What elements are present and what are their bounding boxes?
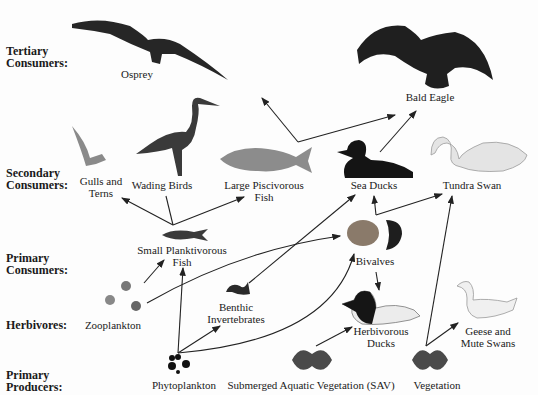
arrow-fish-to-osprey bbox=[262, 98, 298, 142]
label-large-piscivorous-fish: Large PiscivorousFish bbox=[224, 180, 304, 203]
arrow-vegetation-to-geese bbox=[426, 323, 458, 346]
label-vegetation: Vegetation bbox=[413, 380, 460, 392]
arrow-smallfish-to-wading bbox=[166, 196, 173, 225]
label-text: Terns bbox=[89, 187, 113, 199]
label-text: Vegetation bbox=[413, 379, 460, 391]
label-text: Mute Swans bbox=[461, 337, 516, 349]
label-text: Ducks bbox=[367, 337, 395, 349]
label-text: Fish bbox=[255, 191, 274, 203]
label-text: Large Piscivorous bbox=[224, 179, 304, 191]
arrow-fish-to-bald-eagle bbox=[298, 115, 395, 142]
label-tundra-swan: Tundra Swan bbox=[443, 180, 502, 192]
label-text: Zooplankton bbox=[85, 319, 141, 331]
label-bivalves: Bivalves bbox=[356, 256, 395, 268]
label-text: Gulls and bbox=[80, 175, 122, 187]
arrow-bivalves-to-herbducks bbox=[376, 272, 379, 290]
label-text: Small Planktivorous bbox=[137, 244, 227, 256]
label-osprey: Osprey bbox=[121, 69, 153, 81]
label-herbivorous-ducks: HerbivorousDucks bbox=[354, 326, 409, 349]
label-sea-ducks: Sea Ducks bbox=[351, 180, 398, 192]
label-text: Bald Eagle bbox=[406, 91, 455, 103]
arrow-bivalves-to-tundra-swan bbox=[376, 194, 442, 215]
label-phytoplankton: Phytoplankton bbox=[152, 380, 216, 392]
label-small-planktivorous-fish: Small PlanktivorousFish bbox=[137, 245, 227, 268]
label-text: Osprey bbox=[121, 68, 153, 80]
label-text: Bivalves bbox=[356, 255, 395, 267]
label-geese-mute-swans: Geese andMute Swans bbox=[461, 326, 516, 349]
label-gulls-terns: Gulls andTerns bbox=[80, 176, 122, 199]
label-text: Sea Ducks bbox=[351, 179, 398, 191]
label-benthic-invertebrates: BenthicInvertebrates bbox=[207, 302, 264, 325]
arrow-vegetation-to-tundra-swan bbox=[426, 196, 452, 346]
label-sav: Submerged Aquatic Vegetation (SAV) bbox=[227, 380, 394, 392]
label-text: Phytoplankton bbox=[152, 379, 216, 391]
label-wading-birds: Wading Birds bbox=[132, 180, 193, 192]
label-text: Wading Birds bbox=[132, 179, 193, 191]
arrow-sav-to-herbducks bbox=[316, 327, 352, 346]
label-text: Herbivorous bbox=[354, 325, 409, 337]
arrow-phyto-to-smallfish bbox=[178, 268, 183, 353]
arrow-bivalves-to-seaducks bbox=[374, 196, 376, 215]
label-zooplankton: Zooplankton bbox=[85, 320, 141, 332]
food-web-diagram: TertiaryConsumers: SecondaryConsumers: P… bbox=[0, 0, 538, 395]
label-text: Geese and bbox=[465, 325, 511, 337]
label-text: Submerged Aquatic Vegetation (SAV) bbox=[227, 379, 394, 391]
label-bald-eagle: Bald Eagle bbox=[406, 92, 455, 104]
arrow-smallfish-to-gulls bbox=[122, 198, 173, 225]
label-text: Benthic bbox=[219, 301, 253, 313]
label-text: Fish bbox=[173, 256, 192, 268]
label-text: Tundra Swan bbox=[443, 179, 502, 191]
arrow-benthic-to-seaducks bbox=[249, 195, 355, 283]
label-text: Invertebrates bbox=[207, 313, 264, 325]
